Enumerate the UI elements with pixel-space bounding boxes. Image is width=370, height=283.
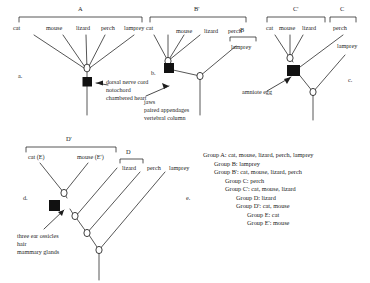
panel-a-bracket-label-A: A <box>78 5 83 13</box>
legend-line-B: Group B: lamprey <box>214 160 314 169</box>
panel-c-taxon-lizard: lizard <box>302 24 316 32</box>
panel-d-annotation-1: three ear ossicles <box>17 233 59 240</box>
panel-c-taxon-mouse: mouse <box>279 24 295 32</box>
panel-a-taxon-cat: cat <box>13 24 20 32</box>
panel-d-taxon-mouse: mouse (E') <box>77 153 104 161</box>
phylogenetic-tree-figure: A cat mouse lizard perch lamprey a. dors… <box>0 0 370 283</box>
panel-b-annotation-2: paired appendages <box>144 107 189 114</box>
panel-b-branches <box>154 35 236 115</box>
panel-a-annotation-3: chambered heart <box>106 95 146 102</box>
panel-c-branches <box>275 35 345 120</box>
legend-letter: e. <box>186 194 190 202</box>
legend-line-Eprime: Group E': mouse <box>247 219 314 228</box>
panel-a-letter: a. <box>18 72 22 80</box>
panel-c-bracket-label-Cprime: C' <box>293 5 298 13</box>
panel-c-taxon-lamprey: lamprey <box>337 42 357 50</box>
panel-a-annotation-2: notochord <box>106 87 131 94</box>
group-legend: Group A: cat, mouse, lizard, perch, lamp… <box>203 151 314 228</box>
panel-a-taxon-lizard: lizard <box>76 24 90 32</box>
panel-a-taxon-mouse: mouse <box>46 24 62 32</box>
panel-b-bracket-Bprime <box>150 17 246 22</box>
panel-b-annotation-3: vertebral column <box>144 115 185 122</box>
panel-d-annotation-3: mammary glands <box>17 249 59 256</box>
panel-d-taxon-cat: cat (E) <box>28 153 45 161</box>
panel-d-branches <box>40 163 165 280</box>
panel-b-bracket-B <box>230 37 256 41</box>
panel-b-taxon-cat: cat <box>146 24 153 32</box>
panel-d-bracket-label-D: D <box>126 148 131 156</box>
panel-c-letter: c. <box>348 76 352 84</box>
legend-line-Cprime: Group C': cat, mouse, lizard <box>225 185 314 194</box>
panel-b-taxon-perch: perch <box>228 27 242 35</box>
panel-d-bracket-Dprime <box>26 147 116 152</box>
panel-b-letter: b. <box>151 69 156 77</box>
legend-line-A: Group A: cat, mouse, lizard, perch, lamp… <box>203 151 314 160</box>
panel-a-branches <box>34 35 134 115</box>
panel-b-taxon-mouse: mouse <box>176 27 192 35</box>
panel-d-annotation-2: hair <box>17 241 26 248</box>
panel-b-annotation-1: jaws <box>144 99 155 106</box>
panel-a-bracket-A <box>19 17 142 22</box>
panel-d-bracket-D <box>120 159 143 163</box>
panel-c-taxon-perch: perch <box>333 24 347 32</box>
legend-line-E: Group E: cat <box>247 211 314 220</box>
panel-d-taxon-perch: perch <box>147 164 161 172</box>
panel-c-taxon-cat: cat <box>266 24 273 32</box>
panel-b-taxon-lamprey: lamprey <box>231 43 251 51</box>
panel-c-bracket-Cprime <box>267 17 325 22</box>
panel-d-taxon-lamprey: lamprey <box>169 164 189 172</box>
tree-linework <box>0 0 370 283</box>
panel-d-bracket-label-Dprime: D' <box>66 135 72 143</box>
legend-line-D: Group D: lizard <box>236 194 314 203</box>
panel-a-taxon-lamprey: lamprey <box>124 24 144 32</box>
panel-c-bracket-C <box>330 17 356 22</box>
panel-c-bracket-label-C: C <box>340 5 344 13</box>
panel-b-taxon-lizard: lizard <box>204 27 218 35</box>
legend-line-C: Group C: perch <box>225 177 314 186</box>
panel-d-taxon-lizard: lizard <box>122 164 136 172</box>
legend-line-Bprime: Group B': cat, mouse, lizard, perch <box>214 168 314 177</box>
panel-c-annotation-1: amniote egg <box>242 89 272 96</box>
panel-a-taxon-perch: perch <box>101 24 115 32</box>
legend-line-Dprime: Group D': cat, mouse <box>236 202 314 211</box>
panel-a-annotation-1: dorsal nerve cord <box>106 79 148 86</box>
panel-b-bracket-label-Bprime: B' <box>194 5 199 13</box>
panel-d-letter: d. <box>23 194 28 202</box>
